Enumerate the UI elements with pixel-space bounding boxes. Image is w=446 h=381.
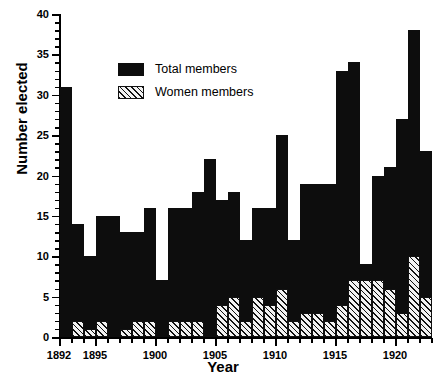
- y-tick-minor: [55, 280, 59, 282]
- x-tick-major: [215, 338, 217, 346]
- bar-women-1922: [420, 297, 432, 337]
- y-tick-major: [52, 135, 59, 137]
- y-tick-minor: [55, 272, 59, 274]
- x-tick-minor: [71, 338, 73, 343]
- y-tick-minor: [55, 289, 59, 291]
- y-tick-major: [52, 216, 59, 218]
- x-tick-minor: [359, 338, 361, 343]
- y-tick-minor: [55, 151, 59, 153]
- y-tick-major: [52, 256, 59, 258]
- x-tick-minor: [131, 338, 133, 343]
- bar-total-1904: [204, 159, 216, 337]
- y-tick-major: [52, 337, 59, 339]
- y-tick-minor: [55, 159, 59, 161]
- bar-women-1893: [72, 321, 84, 337]
- bar-total-1920: [396, 119, 408, 337]
- y-tick-label: 40: [19, 8, 49, 20]
- x-tick-major: [155, 338, 157, 346]
- x-tick-label: 1892: [47, 349, 71, 361]
- legend-label-women: Women members: [155, 85, 253, 99]
- x-tick-major: [275, 338, 277, 346]
- x-tick-minor: [167, 338, 169, 343]
- x-tick-minor: [179, 338, 181, 343]
- x-tick-major: [335, 338, 337, 346]
- bar-women-1901: [168, 321, 180, 337]
- bar-total-1894: [84, 256, 96, 337]
- x-tick-label: 1910: [263, 349, 287, 361]
- legend-item-women: Women members: [118, 85, 308, 99]
- x-tick-minor: [227, 338, 229, 343]
- x-tick-minor: [287, 338, 289, 343]
- bar-women-1917: [360, 280, 372, 337]
- x-tick-major: [59, 338, 61, 346]
- x-tick-minor: [251, 338, 253, 343]
- y-tick-label: 10: [19, 250, 49, 262]
- bar-women-1909: [264, 305, 276, 337]
- y-tick-label: 30: [19, 89, 49, 101]
- bar-women-1897: [120, 329, 132, 337]
- bar-women-1911: [288, 321, 300, 337]
- legend-swatch-women-icon: [118, 86, 144, 99]
- x-axis-ticks: 1892189519001905191019151920: [59, 338, 432, 350]
- x-tick-label: 1915: [323, 349, 347, 361]
- y-tick-minor: [55, 167, 59, 169]
- x-tick-minor: [323, 338, 325, 343]
- y-tick-minor: [55, 240, 59, 242]
- bar-women-1906: [228, 297, 240, 337]
- y-tick-minor: [55, 264, 59, 266]
- x-tick-minor: [299, 338, 301, 343]
- y-tick-minor: [55, 224, 59, 226]
- bar-women-1903: [192, 321, 204, 337]
- chart-figure: Number elected Year 0510152025303540 189…: [0, 0, 446, 381]
- bar-women-1898: [132, 321, 144, 337]
- y-tick-minor: [55, 329, 59, 331]
- y-tick-major: [52, 95, 59, 97]
- bar-total-1897: [120, 232, 132, 337]
- chart-legend: Total members Women members: [118, 62, 308, 108]
- y-tick-minor: [55, 184, 59, 186]
- y-tick-minor: [55, 248, 59, 250]
- bar-women-1899: [144, 321, 156, 337]
- bar-women-1915: [336, 305, 348, 337]
- bar-total-1914: [324, 184, 336, 337]
- bar-women-1920: [396, 313, 408, 337]
- y-tick-label: 20: [19, 170, 49, 182]
- y-tick-minor: [55, 313, 59, 315]
- bar-women-1916: [348, 280, 360, 337]
- x-tick-major: [395, 338, 397, 346]
- y-tick-minor: [55, 143, 59, 145]
- bar-women-1905: [216, 305, 228, 337]
- x-tick-minor: [143, 338, 145, 343]
- y-tick-label: 35: [19, 48, 49, 60]
- legend-swatch-total-icon: [118, 63, 144, 76]
- y-tick-minor: [55, 305, 59, 307]
- bar-total-1892: [60, 87, 72, 337]
- x-tick-label: 1920: [383, 349, 407, 361]
- bar-total-1915: [336, 71, 348, 337]
- x-tick-minor: [383, 338, 385, 343]
- x-tick-label: 1900: [143, 349, 167, 361]
- y-tick-minor: [55, 87, 59, 89]
- y-tick-major: [52, 297, 59, 299]
- y-tick-minor: [55, 232, 59, 234]
- x-tick-label: 1905: [203, 349, 227, 361]
- legend-item-total: Total members: [118, 62, 308, 76]
- x-tick-minor: [347, 338, 349, 343]
- y-tick-minor: [55, 119, 59, 121]
- legend-label-total: Total members: [155, 62, 237, 76]
- y-tick-minor: [55, 200, 59, 202]
- bar-total-1900: [156, 280, 168, 337]
- bar-women-1921: [408, 256, 420, 337]
- y-tick-minor: [55, 127, 59, 129]
- x-tick-minor: [431, 338, 433, 343]
- y-tick-minor: [55, 62, 59, 64]
- x-tick-minor: [239, 338, 241, 343]
- y-tick-minor: [55, 71, 59, 73]
- y-tick-minor: [55, 111, 59, 113]
- bar-women-1919: [384, 289, 396, 337]
- y-tick-label: 0: [19, 331, 49, 343]
- y-tick-label: 15: [19, 210, 49, 222]
- bar-total-1899: [144, 208, 156, 337]
- bar-women-1912: [300, 313, 312, 337]
- bar-total-1901: [168, 208, 180, 337]
